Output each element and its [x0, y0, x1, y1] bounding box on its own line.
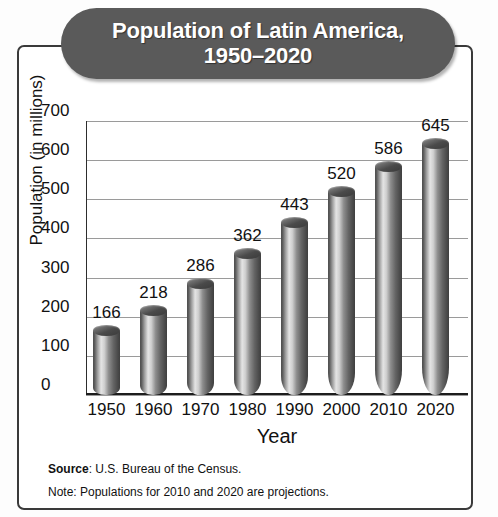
bar[interactable] [93, 330, 120, 395]
bar[interactable] [281, 222, 308, 395]
footnotes: Source: U.S. Bureau of the Census. Note:… [48, 462, 448, 508]
chart-page: Population of Latin America, 1950–2020 P… [0, 0, 498, 517]
footnote-source-label: Source [48, 462, 89, 476]
bar-body [422, 143, 449, 395]
y-axis-tick-label: 0 [40, 375, 83, 395]
bar-top-ellipse [422, 138, 449, 149]
footnote-note: Note: Populations for 2010 and 2020 are … [48, 485, 448, 499]
gridline: 300 [86, 278, 468, 279]
bar-body [234, 253, 261, 395]
y-axis-tick-label: 400 [40, 218, 83, 238]
bar[interactable] [422, 143, 449, 395]
bar-body [93, 330, 120, 395]
bar[interactable] [328, 191, 355, 395]
bar-value-label: 586 [359, 139, 419, 159]
footnote-source-text: : U.S. Bureau of the Census. [89, 462, 242, 476]
y-axis-tick-label: 700 [40, 101, 83, 121]
bar[interactable] [187, 283, 214, 395]
bar-body [140, 310, 167, 395]
bar[interactable] [140, 310, 167, 395]
bar-value-label: 520 [312, 164, 372, 184]
bar-body [328, 191, 355, 395]
bar-top-ellipse [187, 278, 214, 289]
bar-top-ellipse [281, 217, 308, 228]
bar-value-label: 645 [406, 116, 466, 136]
bar-body [375, 166, 402, 395]
x-axis-tick-label: 2020 [406, 400, 466, 420]
bar[interactable] [375, 166, 402, 395]
bar-top-ellipse [93, 325, 120, 336]
bar-value-label: 362 [218, 226, 278, 246]
bar-value-label: 218 [124, 283, 184, 303]
bar-value-label: 166 [77, 303, 137, 323]
bar-top-ellipse [140, 305, 167, 316]
bar-body [281, 222, 308, 395]
chart-title: Population of Latin America, 1950–2020 [98, 19, 418, 68]
y-axis-tick-label: 300 [40, 258, 83, 278]
y-axis-tick-label: 100 [40, 336, 83, 356]
bar-value-label: 443 [265, 195, 325, 215]
y-axis-tick-label: 500 [40, 179, 83, 199]
bar[interactable] [234, 253, 261, 395]
footnote-source: Source: U.S. Bureau of the Census. [48, 462, 448, 476]
bar-value-label: 286 [171, 256, 231, 276]
y-axis-line [86, 121, 87, 395]
bar-body [187, 283, 214, 395]
y-axis-tick-label: 600 [40, 140, 83, 160]
gridline: 600 [86, 160, 468, 161]
bar-top-ellipse [375, 161, 402, 172]
plot-area: 0100200300400500600700 16621828636244352… [86, 121, 468, 395]
chart-title-banner: Population of Latin America, 1950–2020 [61, 8, 455, 79]
x-axis-title: Year [86, 425, 468, 448]
gridline: 0 [86, 395, 468, 396]
